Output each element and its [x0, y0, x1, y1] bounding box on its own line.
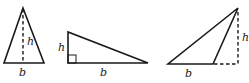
triangle-3-base-label: b — [185, 67, 192, 80]
triangle-2-height-label: h — [58, 41, 65, 54]
triangle-1-base-label: b — [19, 66, 26, 79]
triangle-3-height-label: h — [242, 31, 249, 44]
triangle-2-base-label: b — [100, 66, 107, 79]
triangle-1-outline — [4, 8, 44, 63]
triangle-2-outline — [68, 32, 148, 63]
triangles-diagram: h b h b h b — [0, 0, 249, 83]
right-triangle: h b — [58, 32, 148, 79]
acute-isosceles-triangle: h b — [4, 8, 44, 79]
obtuse-triangle: h b — [168, 8, 249, 80]
triangle-3-outline — [168, 8, 238, 64]
right-angle-marker — [68, 55, 76, 63]
triangle-1-height-label: h — [27, 35, 34, 48]
